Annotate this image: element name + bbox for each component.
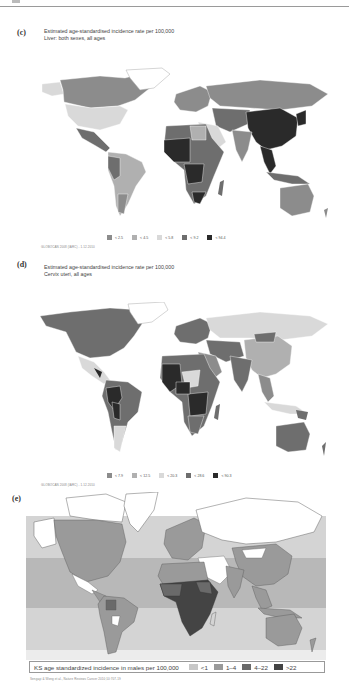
top-divider	[0, 6, 349, 7]
legend-swatch	[274, 664, 283, 670]
legend-swatch	[186, 473, 191, 478]
legend-item: < 28.6	[186, 473, 204, 478]
panel-c-title: Estimated age-standardised incidence rat…	[44, 28, 174, 41]
panel-e-legend-title: KS age standardized incidence in males p…	[34, 664, 179, 671]
page-top-mark	[12, 0, 20, 3]
legend-swatch	[107, 235, 112, 240]
panel-e-label: (e)	[12, 494, 21, 503]
panel-d-source: GLOBOCAN 2008 (IARC) - 1.12.2010	[41, 483, 95, 487]
panel-d-legend: < 7.9 < 12.5 < 20.3 < 28.6 < 90.3	[107, 473, 231, 478]
panel-e-credit: Sengayi & Wong et al., Nature Reviews Ca…	[30, 677, 121, 681]
liver-incidence-world-map	[30, 66, 330, 226]
legend-item: < 90.3	[213, 473, 231, 478]
legend-swatch	[132, 235, 137, 240]
legend-item: < 4.5	[132, 235, 148, 240]
legend-item: >22	[274, 664, 297, 671]
legend-item: 4–22	[242, 664, 268, 671]
legend-item: < 7.9	[107, 473, 123, 478]
cervix-incidence-world-map	[30, 302, 330, 462]
legend-item: < 12.5	[132, 473, 150, 478]
legend-item: < 94.4	[207, 235, 225, 240]
kaposi-sarcoma-world-map	[26, 492, 326, 660]
legend-item: < 20.3	[159, 473, 177, 478]
legend-item: < 5.8	[157, 235, 173, 240]
legend-swatch	[157, 235, 162, 240]
legend-swatch	[182, 235, 187, 240]
legend-swatch	[132, 473, 137, 478]
legend-item: <1	[189, 664, 208, 671]
legend-item: < 9.2	[182, 235, 198, 240]
panel-d-title: Estimated age-standardised incidence rat…	[44, 264, 174, 277]
legend-item: 1–4	[214, 664, 236, 671]
panel-d-title-line2: Cervix uteri, all ages	[44, 271, 174, 278]
panel-d-title-line1: Estimated age-standardised incidence rat…	[44, 264, 174, 271]
legend-swatch	[214, 664, 223, 670]
panel-e-legend: KS age standardized incidence in males p…	[29, 661, 325, 673]
legend-swatch	[213, 473, 218, 478]
legend-swatch	[242, 664, 251, 670]
panel-d-label: (d)	[17, 260, 27, 269]
panel-c-title-line2: Liver: both sexes, all ages	[44, 35, 174, 42]
panel-c-legend: < 2.5 < 4.5 < 5.8 < 9.2 < 94.4	[107, 235, 225, 240]
legend-swatch	[189, 664, 198, 670]
panel-c-label: (c)	[17, 28, 26, 37]
panel-c-source: GLOBOCAN 2008 (IARC) - 1.12.2010	[41, 245, 95, 249]
legend-swatch	[107, 473, 112, 478]
legend-swatch	[159, 473, 164, 478]
legend-item: < 2.5	[107, 235, 123, 240]
panel-c-title-line1: Estimated age-standardised incidence rat…	[44, 28, 174, 35]
legend-swatch	[207, 235, 212, 240]
